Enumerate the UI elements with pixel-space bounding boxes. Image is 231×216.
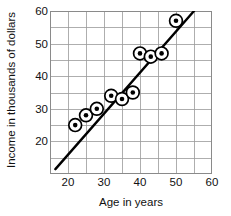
trend-line: [55, 11, 194, 169]
scatter-chart: Income in thousands of dollars 60 50 40 …: [0, 0, 231, 216]
x-tick-label: 30: [89, 176, 119, 188]
data-points: [69, 14, 183, 131]
data-point-dot: [174, 18, 179, 23]
data-point-dot: [149, 54, 154, 59]
y-tick-label: 60: [22, 5, 48, 17]
y-tick-label: 40: [22, 70, 48, 82]
y-axis-tick-labels: 60 50 40 30 20: [20, 0, 48, 216]
plot-svg: [50, 11, 212, 174]
y-tick-label: 50: [22, 38, 48, 50]
y-axis-title-text: Income in thousands of dollars: [5, 12, 17, 168]
x-tick-label: 20: [53, 176, 83, 188]
x-tick-label: 50: [161, 176, 191, 188]
data-point-dot: [131, 90, 136, 95]
data-point-dot: [84, 113, 89, 118]
data-point-dot: [73, 123, 78, 128]
data-point-dot: [95, 107, 100, 112]
x-tick-label: 40: [125, 176, 155, 188]
y-axis-title: Income in thousands of dollars: [0, 0, 22, 180]
plot-area: [50, 11, 212, 174]
x-axis-title: Age in years: [50, 196, 212, 208]
x-tick-label: 60: [197, 176, 227, 188]
data-point-dot: [120, 97, 125, 102]
y-tick-label: 20: [22, 135, 48, 147]
data-point-dot: [159, 51, 164, 56]
data-point-dot: [109, 93, 114, 98]
y-tick-label: 30: [22, 103, 48, 115]
data-point-dot: [138, 51, 143, 56]
